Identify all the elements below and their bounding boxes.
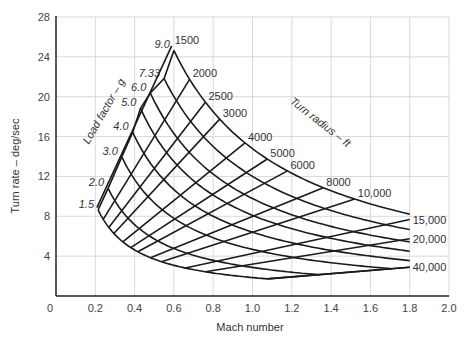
y-tick-label: 24 [38, 51, 50, 63]
turn-radius-label: 20,000 [413, 233, 447, 245]
load-factor-label: 3.0 [103, 145, 119, 157]
turn-rate-chart: 00.20.40.60.81.01.21.41.61.82.0481216202… [0, 0, 464, 341]
turn-radius-label: 10,000 [358, 187, 392, 199]
y-tick-label: 28 [38, 11, 50, 23]
y-tick-label: 16 [38, 131, 50, 143]
x-tick-label: 1.2 [284, 302, 299, 314]
left-boundary [98, 50, 174, 210]
x-tick-label: 0.4 [127, 302, 142, 314]
load-factor-label: 5.0 [121, 96, 137, 108]
turn-radius-label: 4000 [248, 131, 272, 143]
x-axis-label: Mach number [216, 321, 284, 333]
x-tick-label: 0.2 [88, 302, 103, 314]
x-tick-label: 1.4 [323, 302, 338, 314]
x-tick-label: 0.6 [166, 302, 181, 314]
turn-radius-label: 8000 [326, 176, 350, 188]
turn-radius-label: 40,000 [413, 261, 447, 273]
turn-radius-line-20000 [205, 239, 409, 272]
y-axis-label: Turn rate – deg/sec [9, 118, 21, 213]
turn-radius-label: 6000 [290, 159, 314, 171]
load-factor-family-label: Load factor – g [80, 75, 128, 145]
x-tick-label: 1.0 [245, 302, 260, 314]
load-factor-label: 7.33 [139, 67, 161, 79]
x-tick-label: 0.8 [206, 302, 221, 314]
bottom-boundary [267, 267, 409, 279]
y-tick-label: 12 [38, 170, 50, 182]
x-tick-label: 0 [47, 302, 53, 314]
load-factor-label: 1.5 [79, 198, 95, 210]
y-tick-label: 4 [44, 250, 50, 262]
y-tick-label: 8 [44, 210, 50, 222]
turn-radius-label: 2500 [208, 90, 232, 102]
labels: 9.07.336.05.04.03.02.01.5150020002500300… [79, 34, 447, 273]
turn-radius-label: 3000 [223, 107, 247, 119]
x-tick-label: 1.8 [402, 302, 417, 314]
load-factor-label: 2.0 [88, 176, 105, 188]
load-factor-curve-5-0 [141, 108, 410, 251]
y-tick-label: 20 [38, 91, 50, 103]
load-factor-label: 9.0 [155, 38, 171, 50]
turn-radius-label: 15,000 [413, 214, 447, 226]
load-factor-label: 4.0 [113, 120, 129, 132]
turn-radius-label: 5000 [270, 147, 294, 159]
x-tick-label: 2.0 [441, 302, 456, 314]
turn-radius-label: 1500 [175, 34, 199, 46]
load-factor-label: 6.0 [131, 81, 147, 93]
turn-radius-label: 2000 [193, 67, 217, 79]
turn-radius-family-label: Turn radius – ft [288, 95, 354, 150]
x-tick-label: 1.6 [363, 302, 378, 314]
